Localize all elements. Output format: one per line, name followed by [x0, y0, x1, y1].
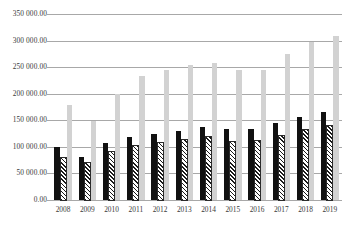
bar-series-2-hatched-2012: [158, 143, 163, 200]
x-tick-label-2010: 2010: [100, 201, 124, 221]
y-tick-label: 350 000.00: [13, 10, 47, 17]
bar-group-2009: [75, 14, 99, 200]
x-tick-label-2015: 2015: [221, 201, 245, 221]
bar-group-2011: [124, 14, 148, 200]
bar-series-2-hatched-2015: [230, 142, 235, 200]
y-tick-label: 200 000.00: [13, 90, 47, 97]
x-tick-label-2018: 2018: [294, 201, 318, 221]
bar-series-1-black-2019: [321, 112, 326, 200]
y-tick-label: 300 000.00: [13, 37, 47, 44]
x-tick-label-2012: 2012: [148, 201, 172, 221]
x-tick-label-2008: 2008: [51, 201, 75, 221]
bar-series-2-hatched-2016: [255, 141, 260, 200]
bar-series-1-black-2013: [176, 131, 181, 200]
bar-group-2018: [294, 14, 318, 200]
bar-group-2010: [100, 14, 124, 200]
bar-group-2014: [197, 14, 221, 200]
y-tick-label: 150 000.00: [13, 117, 47, 124]
bar-series-1-black-2018: [297, 117, 302, 200]
bar-series-1-black-2016: [248, 129, 253, 200]
bar-group-2019: [318, 14, 342, 200]
bar-series-3-lightgray-2011: [139, 76, 144, 200]
bar-series-1-black-2015: [224, 129, 229, 200]
y-tick-label: 50 000.00: [17, 170, 47, 177]
bar-chart: 0.0050 000.00100 000.00150 000.00200 000…: [0, 0, 345, 228]
bar-series-2-hatched-2019: [327, 126, 332, 200]
x-tick-label-2011: 2011: [124, 201, 148, 221]
bar-series-2-hatched-2013: [182, 140, 187, 200]
bar-series-1-black-2010: [103, 143, 108, 200]
bar-group-2015: [221, 14, 245, 200]
y-tick-label: 100 000.00: [13, 143, 47, 150]
bar-series-1-black-2011: [127, 137, 132, 200]
bar-series-3-lightgray-2018: [309, 42, 314, 200]
bar-series-1-black-2012: [151, 134, 156, 200]
bar-series-3-lightgray-2015: [236, 70, 241, 200]
y-axis: 0.0050 000.00100 000.00150 000.00200 000…: [0, 0, 47, 228]
x-tick-label-2016: 2016: [245, 201, 269, 221]
bar-series-3-lightgray-2008: [67, 105, 72, 200]
bar-group-2017: [269, 14, 293, 200]
bar-series-3-lightgray-2014: [212, 63, 217, 200]
bar-series-1-black-2017: [273, 123, 278, 200]
bar-series-2-hatched-2014: [206, 137, 211, 200]
bar-groups: [51, 14, 342, 200]
plot-area: [51, 14, 342, 200]
bar-series-2-hatched-2010: [109, 152, 114, 200]
bar-series-1-black-2014: [200, 127, 205, 200]
x-tick-label-2017: 2017: [269, 201, 293, 221]
bar-series-3-lightgray-2012: [164, 70, 169, 200]
bar-series-3-lightgray-2013: [188, 65, 193, 200]
bar-series-2-hatched-2017: [279, 136, 284, 200]
bar-series-3-lightgray-2016: [261, 70, 266, 200]
bar-group-2008: [51, 14, 75, 200]
bar-series-2-hatched-2011: [133, 146, 138, 200]
bar-series-2-hatched-2008: [61, 158, 66, 200]
bar-group-2012: [148, 14, 172, 200]
x-axis: 2008200920102011201220132014201520162017…: [51, 201, 342, 221]
bar-series-3-lightgray-2009: [91, 121, 96, 200]
bar-series-3-lightgray-2019: [333, 36, 338, 200]
x-tick-label-2013: 2013: [172, 201, 196, 221]
bar-series-1-black-2009: [79, 157, 84, 200]
bar-series-3-lightgray-2010: [115, 94, 120, 200]
bar-series-1-black-2008: [54, 147, 59, 200]
bar-group-2016: [245, 14, 269, 200]
y-tick-label: 250 000.00: [13, 63, 47, 70]
y-tick-label: 0.00: [34, 196, 47, 203]
bar-series-2-hatched-2009: [85, 163, 90, 200]
x-tick-label-2019: 2019: [318, 201, 342, 221]
bar-series-3-lightgray-2017: [285, 54, 290, 200]
bar-series-2-hatched-2018: [303, 130, 308, 200]
x-tick-label-2009: 2009: [75, 201, 99, 221]
bar-group-2013: [172, 14, 196, 200]
x-tick-label-2014: 2014: [197, 201, 221, 221]
